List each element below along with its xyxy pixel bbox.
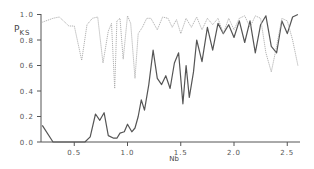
- y-tick-label: 1.0: [20, 11, 34, 19]
- x-tick-label: 1.0: [120, 149, 134, 157]
- y-axis-title-sub: KS: [19, 29, 30, 37]
- series-layer: [42, 15, 298, 143]
- x-axis-ticks: 0.51.01.52.02.5: [67, 142, 294, 157]
- x-tick-label: 0.5: [67, 149, 81, 157]
- series-line-dotted: [42, 16, 298, 89]
- y-tick-label: 0.0: [20, 139, 34, 147]
- x-axis-title: Nb: [169, 155, 179, 163]
- x-tick-label: 2.5: [280, 149, 294, 157]
- series-line-solid: [42, 15, 298, 143]
- pks-vs-nb-chart: 0.51.01.52.02.5 0.00.20.40.60.81.0 Nb PK…: [0, 0, 314, 169]
- y-axis-title: PKS: [14, 24, 30, 37]
- y-tick-label: 0.6: [20, 62, 34, 70]
- x-tick-label: 2.0: [227, 149, 241, 157]
- y-tick-label: 0.8: [20, 37, 34, 45]
- y-tick-label: 0.4: [20, 88, 34, 96]
- y-tick-label: 0.2: [20, 113, 34, 121]
